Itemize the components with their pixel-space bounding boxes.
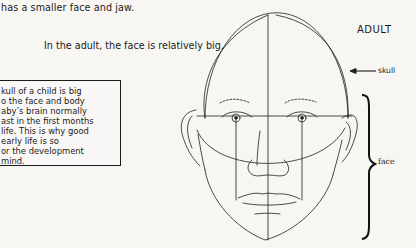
skull-arrow-icon	[350, 69, 376, 74]
skull-outline	[205, 13, 348, 118]
adult-face-drawing	[0, 0, 416, 248]
face-brace-icon	[362, 95, 375, 239]
